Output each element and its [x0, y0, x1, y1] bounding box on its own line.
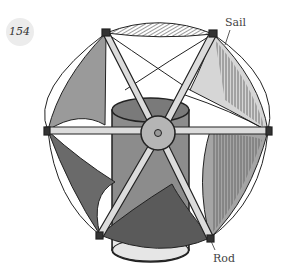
- hub: [141, 116, 175, 150]
- sail-label: Sail: [225, 16, 246, 29]
- sail-leader-line: [225, 30, 230, 45]
- rod-label: Rod: [213, 252, 235, 265]
- rotor-illustration: [0, 0, 282, 278]
